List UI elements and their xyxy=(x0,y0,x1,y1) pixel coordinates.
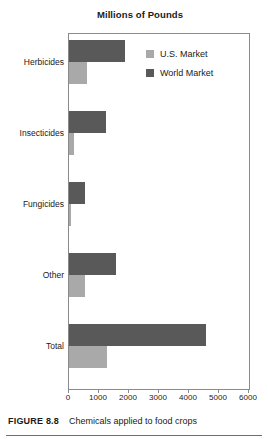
bar-us-market xyxy=(69,275,85,297)
legend-item: World Market xyxy=(146,65,213,81)
bar-us-market xyxy=(69,62,87,84)
bar-world-market xyxy=(69,253,116,275)
legend-swatch-icon xyxy=(146,50,154,58)
category-label: Herbicides xyxy=(0,57,64,67)
category-label: Total xyxy=(0,341,64,351)
chart-legend: U.S. MarketWorld Market xyxy=(146,46,213,84)
figure-caption-label: FIGURE 8.8 xyxy=(8,416,59,426)
legend-item: U.S. Market xyxy=(146,46,213,62)
figure-container: Millions of Pounds HerbicidesInsecticide… xyxy=(0,0,268,441)
category-axis-labels: HerbicidesInsecticidesFungicidesOtherTot… xyxy=(0,34,64,389)
bars-layer xyxy=(69,34,249,389)
category-label: Fungicides xyxy=(0,199,64,209)
category-label: Insecticides xyxy=(0,128,64,138)
caption-divider xyxy=(6,435,262,436)
x-tick-label: 4000 xyxy=(179,393,197,402)
x-tick-label: 0 xyxy=(66,393,70,402)
figure-caption-text: Chemicals applied to food crops xyxy=(69,416,197,426)
bar-us-market xyxy=(69,346,107,368)
bar-us-market xyxy=(69,204,71,226)
x-axis: 0100020003000400050006000 xyxy=(68,389,250,409)
legend-swatch-icon xyxy=(146,69,154,77)
bar-us-market xyxy=(69,133,74,155)
x-tick-label: 1000 xyxy=(89,393,107,402)
legend-label: World Market xyxy=(160,68,213,78)
x-tick-label: 6000 xyxy=(239,393,257,402)
x-tick-label: 5000 xyxy=(209,393,227,402)
chart-title: Millions of Pounds xyxy=(60,9,220,20)
bar-world-market xyxy=(69,111,106,133)
legend-label: U.S. Market xyxy=(160,49,208,59)
bar-world-market xyxy=(69,324,206,346)
x-tick-label: 3000 xyxy=(149,393,167,402)
x-tick-label: 2000 xyxy=(119,393,137,402)
bar-world-market xyxy=(69,182,85,204)
category-label: Other xyxy=(0,270,64,280)
figure-caption: FIGURE 8.8Chemicals applied to food crop… xyxy=(8,416,260,426)
bar-world-market xyxy=(69,40,125,62)
